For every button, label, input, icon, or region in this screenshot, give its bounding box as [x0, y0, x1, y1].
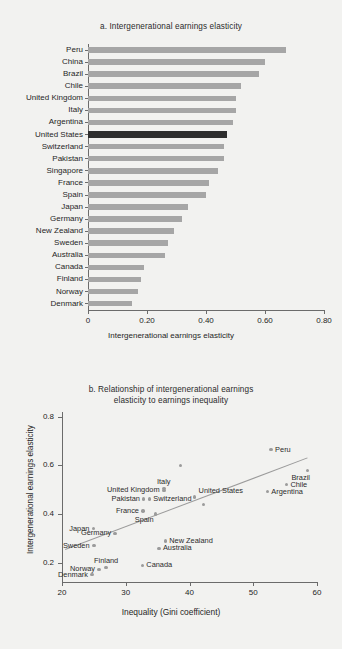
- x-axis-tick-label: 40: [170, 588, 210, 597]
- bar-category-label: Argentina: [49, 116, 83, 128]
- bar-row: Sweden: [88, 237, 324, 249]
- bar-italy: [88, 108, 236, 114]
- scatter-point-sweden: [92, 544, 95, 547]
- bar-category-label: Switzerland: [42, 141, 83, 153]
- scatter-point-label: Switzerland: [153, 494, 191, 503]
- scatter-point-label: Sweden: [63, 541, 90, 550]
- x-axis-tick: [147, 310, 148, 314]
- bar-chart-plot-area: PeruChinaBrazilChileUnited KingdomItalyA…: [88, 44, 324, 310]
- scatter-point-peru: [269, 448, 272, 451]
- bar-row: Switzerland: [88, 141, 324, 153]
- scatter-point-label: United States: [199, 486, 243, 495]
- bar-canada: [88, 265, 144, 271]
- bar-row: China: [88, 56, 324, 68]
- scatter-point-label: France: [116, 506, 139, 515]
- bar-row: Finland: [88, 273, 324, 285]
- bar-row: Singapore: [88, 165, 324, 177]
- bar-category-label: Australia: [52, 249, 83, 261]
- y-axis-tick: [58, 514, 62, 515]
- panel-b-x-axis-title: Inequality (Gini coefficient): [0, 607, 342, 617]
- bar-category-label: China: [62, 56, 83, 68]
- scatter-point-finland: [104, 566, 107, 569]
- bar-spain: [88, 192, 206, 198]
- bar-row: United Kingdom: [88, 92, 324, 104]
- scatter-point-label: Argentina: [271, 487, 303, 496]
- y-axis-tick: [58, 465, 62, 466]
- scatter-point-label: Australia: [163, 543, 192, 552]
- x-axis-tick-label: 0.60: [245, 316, 285, 325]
- x-axis-tick-label: 20: [42, 588, 82, 597]
- scatter-point-label: Germany: [81, 528, 111, 537]
- bar-new-zealand: [88, 228, 174, 234]
- bar-row: Canada: [88, 261, 324, 273]
- scatter-point-germany: [113, 532, 116, 535]
- bar-row: New Zealand: [88, 225, 324, 237]
- panel-a-bar-chart: a. Intergenerational earnings elasticity…: [0, 0, 342, 355]
- panel-b-y-axis-title: Intergenerational earnings elasticity: [26, 405, 35, 575]
- bar-row: United States: [88, 129, 324, 141]
- bar-row: Italy: [88, 104, 324, 116]
- figure-container: a. Intergenerational earnings elasticity…: [0, 0, 342, 649]
- bar-row: France: [88, 177, 324, 189]
- bar-category-label: Pakistan: [52, 153, 83, 165]
- bar-row: Peru: [88, 44, 324, 56]
- scatter-plot-area: PeruBrazilChileArgentinaItalyUnited King…: [62, 412, 317, 582]
- bar-category-label: Spain: [63, 189, 83, 201]
- scatter-point-label: Pakistan: [112, 494, 140, 503]
- scatter-point-denmark: [90, 573, 93, 576]
- scatter-point-new-zealand: [164, 539, 167, 542]
- x-axis-tick: [265, 310, 266, 314]
- bar-category-label: France: [58, 177, 83, 189]
- bar-germany: [88, 216, 182, 222]
- bar-category-label: United States: [35, 129, 83, 141]
- bar-category-label: Japan: [61, 201, 83, 213]
- x-axis-tick: [190, 582, 191, 586]
- panel-a-x-axis-title: Intergenerational earnings elasticity: [0, 331, 342, 340]
- x-axis-tick: [317, 582, 318, 586]
- bar-row: Spain: [88, 189, 324, 201]
- scatter-point-france: [141, 509, 144, 512]
- scatter-point: [179, 464, 182, 467]
- x-axis-tick: [126, 582, 127, 586]
- bar-singapore: [88, 168, 218, 174]
- scatter-point-label: Peru: [275, 445, 291, 454]
- bar-row: Germany: [88, 213, 324, 225]
- x-axis-tick-label: 0.40: [186, 316, 226, 325]
- bar-category-label: Norway: [56, 286, 83, 298]
- scatter-point-united-states: [193, 495, 196, 498]
- scatter-point: [202, 503, 205, 506]
- bar-row: Argentina: [88, 116, 324, 128]
- panel-b-title-line2: elasticity to earnings inequality: [0, 396, 342, 405]
- x-axis-tick-label: 0.20: [127, 316, 167, 325]
- bar-france: [88, 180, 209, 186]
- bar-category-label: Peru: [66, 44, 83, 56]
- bar-category-label: Canada: [55, 261, 83, 273]
- scatter-point-australia: [157, 547, 160, 550]
- bar-category-label: Italy: [68, 104, 83, 116]
- y-axis-tick-label: 0.2: [14, 558, 54, 567]
- bar-category-label: Sweden: [54, 237, 83, 249]
- scatter-point-label: Canada: [146, 560, 172, 569]
- bar-row: Brazil: [88, 68, 324, 80]
- x-axis-tick-label: 50: [233, 588, 273, 597]
- scatter-point-norway: [97, 568, 100, 571]
- x-axis-tick: [206, 310, 207, 314]
- bar-denmark: [88, 301, 132, 307]
- bar-row: Norway: [88, 286, 324, 298]
- y-axis-tick-label: 0.6: [14, 460, 54, 469]
- bar-finland: [88, 277, 141, 283]
- scatter-point-label: Denmark: [58, 570, 88, 579]
- bar-peru: [88, 47, 286, 53]
- y-axis-tick: [58, 563, 62, 564]
- y-axis-tick: [58, 417, 62, 418]
- bar-category-label: United Kingdom: [26, 92, 83, 104]
- bar-row: Chile: [88, 80, 324, 92]
- scatter-point-pakistan: [142, 497, 145, 500]
- x-axis-tick-label: 0.80: [304, 316, 342, 325]
- x-axis-tick: [324, 310, 325, 314]
- scatter-point-argentina: [266, 490, 269, 493]
- bar-australia: [88, 253, 165, 259]
- x-axis-tick: [253, 582, 254, 586]
- scatter-point-canada: [141, 564, 144, 567]
- panel-b-scatter-chart: b. Relationship of intergenerational ear…: [0, 355, 342, 649]
